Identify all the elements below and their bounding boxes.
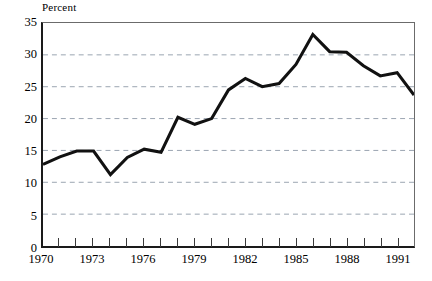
x-axis-tick-mark (177, 238, 178, 247)
x-axis-tick-mark (160, 238, 161, 247)
y-axis-tick-label: 20 (3, 113, 37, 126)
x-axis-tick-label: 1982 (223, 252, 267, 266)
x-axis-tick-mark (296, 238, 297, 247)
x-axis-tick-marks (41, 238, 415, 248)
x-axis-tick-mark (364, 238, 365, 247)
x-axis-tick-mark (194, 238, 195, 247)
x-axis-tick-label: 1976 (121, 252, 165, 266)
y-axis-tick-label: 25 (3, 81, 37, 94)
x-axis-tick-mark (211, 238, 212, 247)
x-axis-tick-label: 1970 (19, 252, 63, 266)
x-axis-tick-mark (313, 238, 314, 247)
x-axis-tick-labels: 19701973197619791982198519881991 (0, 252, 432, 272)
x-axis-tick-label: 1988 (325, 252, 369, 266)
x-axis-tick-mark (92, 238, 93, 247)
x-axis-tick-mark (262, 238, 263, 247)
x-axis-tick-mark (381, 238, 382, 247)
x-axis-tick-label: 1991 (376, 252, 420, 266)
x-axis-tick-mark (347, 238, 348, 247)
y-axis-tick-labels: 05101520253035 (0, 22, 37, 248)
x-axis-tick-label: 1973 (70, 252, 114, 266)
plot-area (41, 22, 415, 248)
y-axis-tick-label: 5 (3, 210, 37, 223)
x-axis-tick-mark (245, 238, 246, 247)
data-series-line (43, 34, 414, 174)
x-axis-tick-label: 1985 (274, 252, 318, 266)
y-axis-tick-label: 10 (3, 177, 37, 190)
x-axis-tick-mark (398, 238, 399, 247)
x-axis-tick-mark (75, 238, 76, 247)
y-axis-tick-label: 15 (3, 145, 37, 158)
x-axis-tick-mark (109, 238, 110, 247)
y-axis-tick-label: 30 (3, 48, 37, 61)
x-axis-tick-mark (143, 238, 144, 247)
chart-container: Percent 05101520253035 19701973197619791… (0, 0, 432, 281)
series-line-chart (43, 23, 414, 246)
x-axis-tick-mark (58, 238, 59, 247)
x-axis-tick-mark (228, 238, 229, 247)
y-axis-unit-label: Percent (42, 1, 76, 14)
x-axis-tick-mark (279, 238, 280, 247)
x-axis-tick-label: 1979 (172, 252, 216, 266)
y-axis-tick-label: 35 (3, 16, 37, 29)
x-axis-tick-mark (126, 238, 127, 247)
x-axis-tick-mark (330, 238, 331, 247)
